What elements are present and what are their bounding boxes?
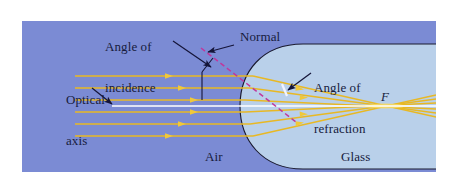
glass-label: Glass <box>341 150 370 164</box>
angle-of-incidence-line2: incidence <box>105 81 156 95</box>
angle-of-incidence-label: Angle of incidence <box>105 13 156 121</box>
angle-of-refraction-label: Angle of refraction <box>314 54 366 162</box>
optical-axis-label: Optical axis <box>66 66 105 174</box>
optical-axis-line2: axis <box>66 134 105 148</box>
angle-of-incidence-line1: Angle of <box>105 40 156 54</box>
optics-refraction-figure: Angle of incidence Normal Angle of refra… <box>0 0 459 193</box>
focal-point-label: F <box>381 90 389 104</box>
normal-label: Normal <box>240 30 280 44</box>
optical-axis-line1: Optical <box>66 93 105 107</box>
angle-of-refraction-line1: Angle of <box>314 81 366 95</box>
air-label: Air <box>205 150 223 164</box>
angle-of-refraction-line2: refraction <box>314 122 366 136</box>
